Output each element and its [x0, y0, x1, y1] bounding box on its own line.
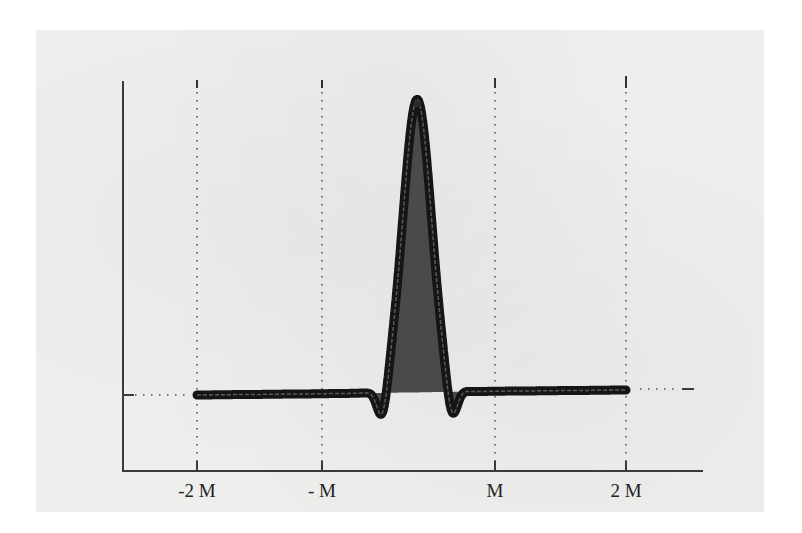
- peak-cap: [413, 101, 421, 107]
- x-tick-label: M: [487, 480, 504, 501]
- x-tick-label: - M: [308, 480, 336, 501]
- x-tick-label: 2 M: [610, 480, 641, 501]
- curve-series: [197, 99, 626, 414]
- x-ticks: -2 M- MM2 M: [178, 461, 641, 501]
- chart: -2 M- MM2 M: [0, 0, 802, 533]
- x-tick-label: -2 M: [178, 480, 216, 501]
